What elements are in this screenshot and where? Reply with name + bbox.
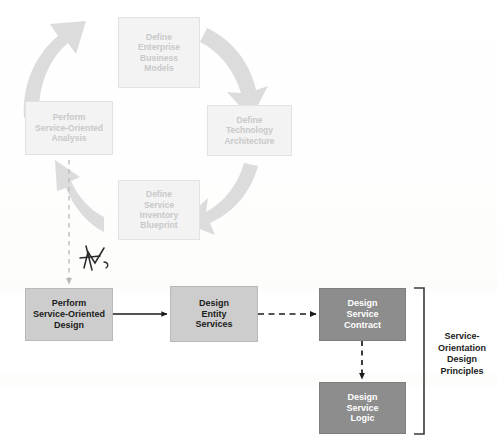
cycle-step-define-service-inventory-blueprint[interactable]: DefineServiceInventoryBlueprint — [118, 180, 200, 240]
cycle-step-perform-service-oriented-analysis[interactable]: PerformService-OrientedAnalysis — [25, 101, 113, 155]
diagram-connector-layer — [0, 0, 497, 444]
flow-step-design-service-contract[interactable]: DesignServiceContract — [319, 288, 406, 341]
service-orientation-design-principles-label: Service-OrientationDesignPrinciples — [429, 331, 495, 377]
cycle-step-label: DefineTechnologyArchitecture — [208, 115, 291, 146]
cycle-step-label: DefineServiceInventoryBlueprint — [119, 189, 199, 230]
cycle-step-define-technology-architecture[interactable]: DefineTechnologyArchitecture — [207, 105, 292, 156]
cycle-step-label: PerformService-OrientedAnalysis — [26, 112, 112, 143]
flow-step-perform-service-oriented-design[interactable]: PerformService-OrientedDesign — [25, 288, 113, 341]
cycle-step-label: DefineEnterpriseBusinessModels — [119, 32, 199, 73]
flow-step-label: DesignServiceLogic — [320, 392, 405, 425]
flow-step-label: DesignServiceContract — [320, 298, 405, 331]
handwritten-pen-mark — [80, 246, 108, 270]
cycle-arrow-bottom-to-left — [55, 160, 104, 232]
flow-step-design-entity-services[interactable]: DesignEntityServices — [170, 286, 258, 342]
flow-step-label: PerformService-OrientedDesign — [26, 298, 112, 331]
flow-step-label: DesignEntityServices — [171, 298, 257, 331]
service-orientation-bracket — [414, 288, 424, 434]
diagram-canvas: DefineEnterpriseBusinessModels DefineTec… — [0, 0, 497, 444]
cycle-step-define-enterprise-business-models[interactable]: DefineEnterpriseBusinessModels — [118, 17, 200, 88]
flow-step-design-service-logic[interactable]: DesignServiceLogic — [319, 382, 406, 434]
